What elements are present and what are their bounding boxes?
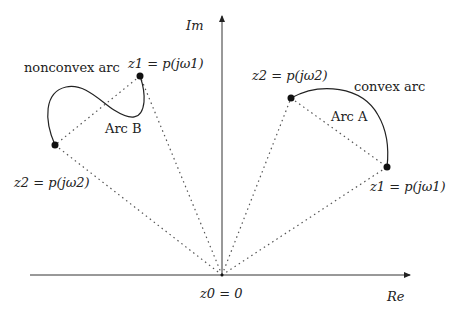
arc-b-name: Arc B — [104, 121, 142, 136]
arc-a-name: Arc A — [330, 109, 368, 124]
real-axis-label: Re — [386, 289, 405, 304]
arc-a-z1-label: z1 = p(jω1) — [369, 179, 446, 194]
origin-label: z0 = 0 — [199, 286, 243, 301]
imag-axis-label: Im — [185, 18, 203, 33]
convex-arc-diagram: Im Re z0 = 0 nonconvex arc z1 = p(jω1) A… — [0, 0, 456, 318]
arc-b-z2-point — [52, 142, 59, 149]
arc-a-z2-label: z2 = p(jω2) — [251, 68, 328, 83]
arc-a-z2-point — [288, 95, 295, 102]
arc-b-z1-label: z1 = p(jω1) — [127, 56, 204, 71]
arc-b-annotation: nonconvex arc — [24, 60, 120, 75]
arc-a-curve — [291, 89, 388, 167]
dotted-rays — [55, 76, 387, 275]
arc-a-z1-point — [384, 164, 391, 171]
origin-point — [221, 274, 224, 277]
arc-b-z2-label: z2 = p(jω2) — [13, 175, 90, 190]
arc-a-annotation: convex arc — [354, 79, 425, 94]
arc-b-z1-point — [137, 73, 144, 80]
